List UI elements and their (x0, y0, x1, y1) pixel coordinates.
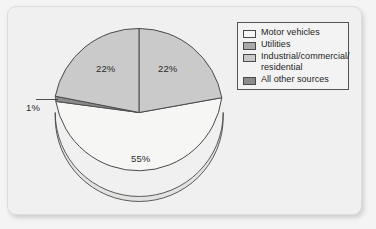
legend-label-industrial-line1: Industrial/commercial/ (261, 51, 350, 61)
chart-panel: 22% 22% 55% 1% Motor vehicles Utilities … (7, 6, 362, 215)
legend-swatch-icon-utilities (243, 42, 256, 50)
plot-area: 22% 22% 55% 1% Motor vehicles Utilities … (8, 7, 362, 215)
slice-label-all-other-sources: 1% (26, 103, 40, 113)
legend-item-utilities[interactable]: Utilities (243, 39, 344, 50)
legend-swatch-icon-all-other-sources (243, 77, 256, 85)
legend-label-all-other-sources: All other sources (261, 74, 329, 85)
legend-item-industrial-commercial-residential[interactable]: Industrial/commercial/ residential (243, 51, 344, 73)
legend-item-all-other-sources[interactable]: All other sources (243, 74, 344, 85)
legend-label-utilities: Utilities (261, 39, 290, 50)
slice-label-industrial: 22% (158, 64, 177, 74)
slice-label-motor-vehicles: 55% (131, 154, 150, 164)
chart-legend: Motor vehicles Utilities Industrial/comm… (237, 22, 349, 90)
legend-item-motor-vehicles[interactable]: Motor vehicles (243, 27, 344, 38)
legend-label-industrial-line2: residential (261, 62, 303, 72)
legend-label-motor-vehicles: Motor vehicles (261, 27, 320, 38)
figure-root: 22% 22% 55% 1% Motor vehicles Utilities … (0, 0, 376, 229)
legend-swatch-icon-motor-vehicles (243, 30, 256, 38)
legend-label-industrial: Industrial/commercial/ residential (261, 51, 350, 73)
legend-swatch-icon-industrial (243, 54, 256, 62)
slice-label-utilities: 22% (96, 64, 115, 74)
pie-slice-industrial-commercial-residential[interactable] (139, 29, 222, 113)
